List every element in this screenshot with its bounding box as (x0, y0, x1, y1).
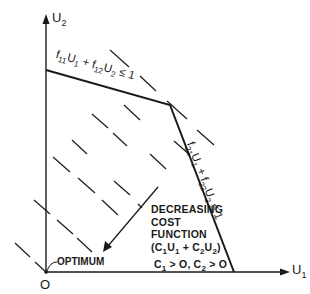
x-axis-label: U1 (292, 262, 306, 280)
cost-line-expression: (C1U1 + C2U2) (151, 241, 227, 259)
cond-gt1: > O, C (166, 258, 201, 270)
x-axis-arrow-icon (280, 269, 290, 276)
cost-function-annotation: DECREASING COST FUNCTION (C1U1 + C2U2) C… (151, 203, 227, 276)
x-axis-label-sub: 1 (301, 270, 306, 280)
x-axis-label-main: U (292, 262, 301, 277)
origin-label: O (40, 277, 50, 292)
cost-line-conditions: C1 > O, C2 > O (151, 258, 227, 276)
optimum-leader (47, 262, 57, 271)
expr-close: ) (217, 241, 221, 253)
y-axis-label-main: U (52, 10, 61, 25)
optimum-point (44, 270, 48, 274)
cond-c1: C (154, 258, 162, 270)
expr-u1: U (167, 241, 175, 253)
y-axis-label: U2 (52, 10, 66, 28)
optimum-label: OPTIMUM (57, 256, 104, 267)
cost-line-cost: COST (151, 216, 227, 229)
expr-plus: + C (180, 241, 200, 253)
cost-line-function: FUNCTION (151, 228, 227, 241)
y-axis-arrow-icon (43, 14, 50, 24)
cond-gt2: > O (206, 258, 227, 270)
cost-line-decreasing: DECREASING (151, 203, 227, 216)
y-axis-label-sub: 2 (61, 18, 66, 28)
expr-open: (C (151, 241, 162, 253)
